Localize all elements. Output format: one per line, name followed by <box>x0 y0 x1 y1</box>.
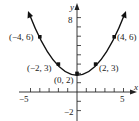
point-neg4-6 <box>38 35 42 39</box>
point-neg2-3 <box>57 62 61 66</box>
x-tick-label-max: 5 <box>120 94 125 104</box>
label-neg4-6: (−4, 6) <box>9 32 34 42</box>
y-ticks <box>77 18 81 111</box>
parabola-chart: (−4, 6) (−2, 3) (0, 2) (2, 3) (4, 6) −5 … <box>0 0 139 121</box>
x-axis-label: x <box>133 82 138 92</box>
label-2-3: (2, 3) <box>99 63 119 73</box>
y-axis-arrow-icon <box>75 3 80 10</box>
point-0-2 <box>75 72 79 76</box>
x-tick-label-min: −5 <box>19 94 29 104</box>
y-tick-label-min: −2 <box>64 107 74 117</box>
y-tick-label-max: 8 <box>68 15 73 25</box>
point-4-6 <box>112 35 116 39</box>
label-neg2-3: (−2, 3) <box>27 63 52 73</box>
y-axis-label: y <box>69 2 74 12</box>
label-4-6: (4, 6) <box>117 32 137 42</box>
point-2-3 <box>94 62 98 66</box>
label-0-2: (0, 2) <box>54 75 74 85</box>
